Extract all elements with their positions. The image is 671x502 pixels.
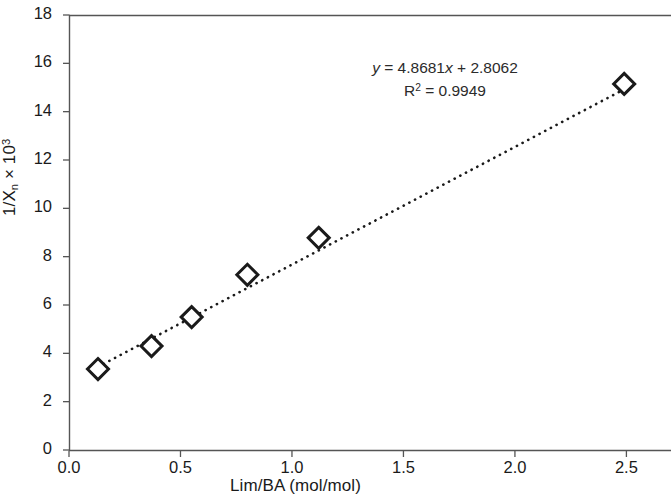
r-squared-label: R xyxy=(404,82,415,99)
x-axis-title: Lim/BA (mol/mol) xyxy=(0,476,671,496)
y-tick-label: 6 xyxy=(12,294,52,313)
x-tick-label: 2.0 xyxy=(485,458,545,477)
x-tick-label: 0.5 xyxy=(150,458,210,477)
y-axis-title-mid: × 10 xyxy=(0,145,19,184)
regression-annotation: y = 4.8681x + 2.8062 R2 = 0.9949 xyxy=(340,58,550,101)
y-tick-label: 4 xyxy=(12,342,52,361)
equation-variable-x: x xyxy=(445,59,453,76)
trendline xyxy=(98,86,631,367)
y-axis-title: 1/Xn × 103 xyxy=(0,182,20,216)
y-tick-label: 14 xyxy=(12,101,52,120)
y-tick-label: 16 xyxy=(12,52,52,71)
r-squared-value: 0.9949 xyxy=(439,82,486,99)
data-point-marker xyxy=(87,359,108,380)
x-tick-label: 0.0 xyxy=(39,458,99,477)
y-tick-label: 18 xyxy=(12,4,52,23)
x-tick-label: 1.5 xyxy=(373,458,433,477)
data-point-marker xyxy=(141,336,162,357)
data-point-marker xyxy=(237,264,258,285)
data-point-marker xyxy=(181,307,202,328)
r-squared-exponent: 2 xyxy=(415,82,421,93)
y-axis-title-subscript: n xyxy=(8,184,20,190)
y-tick-label: 8 xyxy=(12,246,52,265)
y-tick-label: 0 xyxy=(12,439,52,458)
scatter-chart: 024681012141618 0.00.51.01.52.02.5 1/Xn … xyxy=(0,0,671,502)
equation-slope: 4.8681 xyxy=(398,59,445,76)
equation-variable-y: y xyxy=(372,59,380,76)
data-point-marker xyxy=(614,73,635,94)
y-axis-title-superscript: 3 xyxy=(0,139,12,145)
y-tick-label: 2 xyxy=(12,391,52,410)
x-axis-ticks xyxy=(69,451,626,458)
data-point-marker xyxy=(308,227,329,248)
data-point-markers xyxy=(87,73,634,379)
plot-area xyxy=(0,0,671,502)
x-tick-label: 2.5 xyxy=(596,458,656,477)
y-axis-title-prefix: 1/X xyxy=(0,190,19,216)
y-axis-ticks xyxy=(63,15,70,450)
regression-equation: y = 4.8681x + 2.8062 xyxy=(340,58,550,78)
equation-intercept: 2.8062 xyxy=(470,59,517,76)
r-squared-annotation: R2 = 0.9949 xyxy=(340,78,550,101)
x-tick-label: 1.0 xyxy=(262,458,322,477)
